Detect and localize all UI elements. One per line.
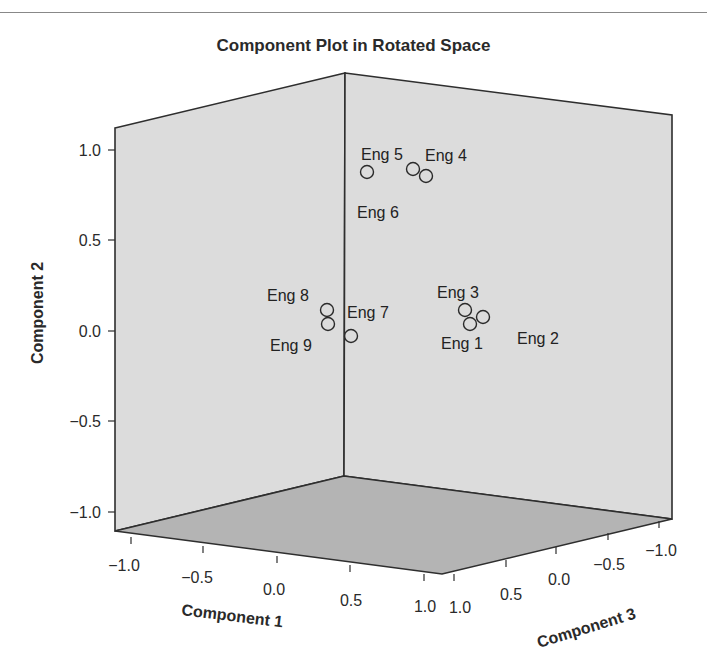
y-tick-label: −0.5 — [69, 413, 101, 430]
y-tick-label: 0.0 — [79, 323, 101, 340]
z-tick-label: 1.0 — [449, 599, 471, 616]
left-wall — [115, 73, 345, 531]
y-axis-title: Component 2 — [29, 262, 46, 364]
x-tick-label: −1.0 — [108, 557, 140, 574]
y-tick-label: 1.0 — [79, 142, 101, 159]
z-tick-label: −1.0 — [645, 542, 677, 559]
z-tick-label: 0.5 — [500, 586, 522, 603]
z-tick-label: 0.0 — [548, 571, 570, 588]
data-point-label: Eng 9 — [270, 337, 312, 354]
x-tick-label: 0.0 — [263, 581, 285, 598]
z-axis-title: Component 3 — [535, 605, 638, 651]
y-tick-label: 0.5 — [79, 232, 101, 249]
data-point-label: Eng 4 — [425, 147, 467, 164]
z-tick-label: −0.5 — [593, 556, 625, 573]
x-tick-label: 1.0 — [414, 598, 436, 615]
x-tick-label: −0.5 — [181, 569, 213, 586]
data-point-label: Eng 2 — [517, 330, 559, 347]
y-axis-component-2: 1.00.50.0−0.5−1.0 — [69, 142, 115, 521]
3d-scatter-plot: 1.00.50.0−0.5−1.0 −1.0−0.50.00.51.0 1.00… — [0, 0, 707, 655]
x-axis-title: Component 1 — [181, 601, 285, 630]
right-wall — [344, 73, 672, 519]
data-point-label: Eng 1 — [441, 335, 483, 352]
data-point-label: Eng 3 — [437, 284, 479, 301]
y-tick-label: −1.0 — [69, 504, 101, 521]
data-point-label: Eng 6 — [357, 204, 399, 221]
data-point-label: Eng 8 — [267, 287, 309, 304]
x-tick-label: 0.5 — [340, 592, 362, 609]
data-point-label: Eng 7 — [347, 304, 389, 321]
data-point-label: Eng 5 — [361, 146, 403, 163]
